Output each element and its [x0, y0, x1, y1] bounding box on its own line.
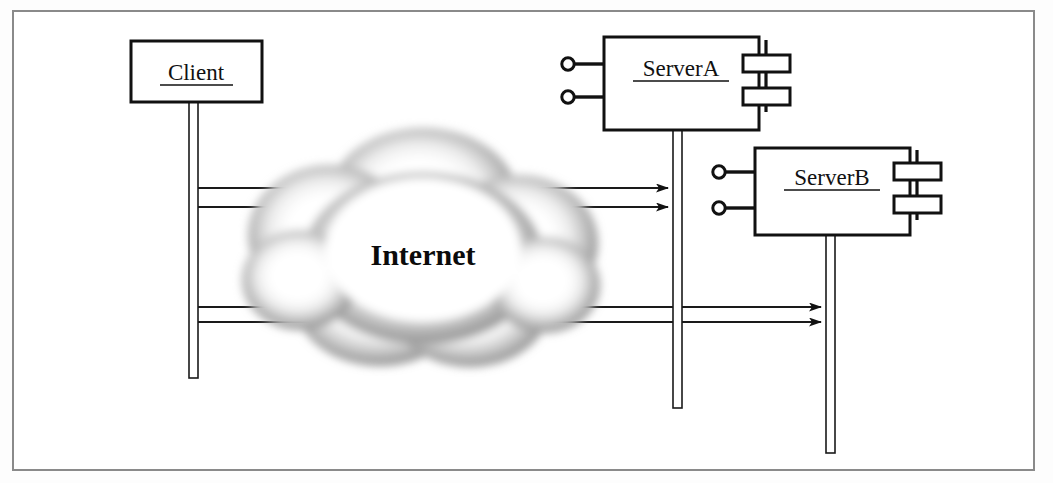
client-lifeline: [189, 102, 198, 378]
serverA-socket-1[interactable]: [743, 55, 790, 72]
serverA-lollipop-icon-1[interactable]: [562, 58, 574, 70]
serverA-lollipop-icon-2[interactable]: [562, 91, 574, 103]
serverB-lollipop-icon-2[interactable]: [713, 202, 725, 214]
client-label: Client: [168, 60, 225, 85]
cloud-label: Internet: [371, 238, 476, 271]
serverB-socket-1[interactable]: [894, 163, 941, 180]
serverB-label: ServerB: [794, 165, 869, 190]
serverB-box[interactable]: [755, 148, 910, 235]
serverA-label: ServerA: [643, 56, 720, 81]
serverB-lifeline: [826, 235, 835, 453]
serverB-lollipop-icon-1[interactable]: [713, 166, 725, 178]
serverB-socket-2[interactable]: [894, 196, 941, 213]
serverA-socket-2[interactable]: [743, 88, 790, 105]
diagram-canvas: Internet Client: [0, 0, 1053, 483]
network-sequence-diagram: Internet Client: [0, 0, 1053, 483]
serverA-box[interactable]: [604, 37, 759, 130]
serverA-lifeline: [673, 130, 682, 408]
